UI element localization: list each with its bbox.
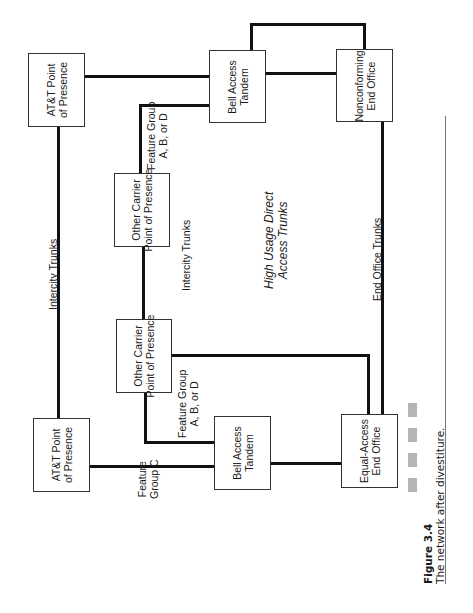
node-nonconforming-end-office: Nonconforming End Office bbox=[336, 49, 393, 122]
node-att-pop-top: AT&T Point of Presence bbox=[28, 53, 85, 127]
label-line1: Feature bbox=[136, 459, 148, 499]
node-label-line1: Bell Access bbox=[231, 426, 243, 480]
node-label: Bell Access Tandem bbox=[226, 60, 250, 114]
figure-caption: Figure 3.4 The network after divestiture… bbox=[422, 428, 446, 584]
node-equal-access-end-office: Equal-Access End Office bbox=[341, 414, 398, 488]
node-label-line1: Equal-Access bbox=[358, 419, 370, 483]
label-line2: A, B, or D bbox=[157, 102, 169, 170]
node-label-line1: AT&T Point bbox=[50, 427, 62, 483]
line-oc-bottom-to-equal-access-h bbox=[171, 354, 369, 357]
line-oc-bottom-to-bell-bottom-v bbox=[144, 392, 147, 443]
node-other-carrier-bottom: Other Carrier Point of Presence bbox=[116, 319, 172, 393]
line-oc-bottom-to-equal-access-v bbox=[367, 354, 370, 414]
label-text: Intercity Trunks bbox=[180, 220, 192, 291]
node-label: AT&T Point of Presence bbox=[50, 427, 74, 483]
node-label-line2: End Office bbox=[365, 50, 377, 121]
node-label-line1: Other Carrier bbox=[130, 169, 142, 252]
label-line1: Feature Group bbox=[176, 370, 188, 438]
label-line2: Group C bbox=[148, 459, 160, 499]
node-label-line2: Point of Presence bbox=[142, 169, 154, 252]
label-line1: High Usage Direct bbox=[262, 192, 276, 289]
line-bell-bottom-to-equal-access bbox=[271, 462, 341, 465]
label-feature-group-c: Feature Group C bbox=[136, 459, 160, 499]
line-loop-left bbox=[250, 23, 253, 50]
node-label-line2: Tandem bbox=[238, 60, 250, 114]
label-end-office-trunks: End Office Trunks bbox=[371, 218, 383, 301]
node-label-line2: of Presence bbox=[62, 427, 74, 483]
node-label-line1: AT&T Point bbox=[45, 62, 57, 118]
caption-bar bbox=[408, 478, 417, 492]
node-label: Other Carrier Point of Presence bbox=[132, 315, 156, 398]
label-line1: Feature Group bbox=[145, 102, 157, 170]
node-label: Bell Access Tandem bbox=[231, 426, 255, 480]
label-line2: Access Trunks bbox=[276, 192, 290, 289]
node-label: Other Carrier Point of Presence bbox=[130, 169, 154, 252]
caption-bar bbox=[408, 453, 417, 467]
node-bell-tandem-top: Bell Access Tandem bbox=[209, 50, 266, 123]
label-line2: A, B, or D bbox=[188, 370, 200, 438]
line-att-top-to-bell-top bbox=[84, 75, 209, 78]
node-label-line2: End Office bbox=[370, 419, 382, 483]
line-bell-top-to-oc-top-v bbox=[139, 104, 142, 173]
node-label: AT&T Point of Presence bbox=[45, 62, 69, 118]
node-label-line1: Bell Access bbox=[226, 60, 238, 114]
line-bell-top-to-nonconforming bbox=[266, 72, 336, 75]
node-label-line1: Nonconforming bbox=[353, 50, 365, 121]
node-other-carrier-top: Other Carrier Point of Presence bbox=[114, 173, 170, 247]
node-label: Nonconforming End Office bbox=[353, 50, 377, 121]
caption-rule bbox=[445, 116, 446, 584]
node-label-line2: Tandem bbox=[243, 426, 255, 480]
line-oc-bottom-to-bell-bottom-h bbox=[144, 441, 214, 444]
node-bell-tandem-bottom: Bell Access Tandem bbox=[214, 416, 271, 490]
label-feature-group-abd-bottom: Feature Group A, B, or D bbox=[176, 370, 200, 438]
node-label-line2: of Presence bbox=[57, 62, 69, 118]
label-text: Intercity Trunks bbox=[47, 239, 59, 310]
node-label-line2: Point of Presence bbox=[144, 315, 156, 398]
line-oc-top-to-oc-bottom bbox=[142, 246, 145, 319]
label-intercity-trunks-left: Intercity Trunks bbox=[47, 239, 59, 310]
node-att-pop-bottom: AT&T Point of Presence bbox=[33, 418, 90, 492]
line-loop-top bbox=[250, 23, 366, 26]
node-label: Equal-Access End Office bbox=[358, 419, 382, 483]
label-text: End Office Trunks bbox=[371, 218, 383, 301]
caption-bar bbox=[408, 428, 417, 442]
line-loop-right bbox=[363, 23, 366, 49]
node-label-line1: Other Carrier bbox=[132, 315, 144, 398]
caption-bar bbox=[408, 403, 417, 417]
figure-number: Figure 3.4 bbox=[422, 428, 434, 584]
label-intercity-trunks-center: Intercity Trunks bbox=[180, 220, 192, 291]
label-feature-group-abd-top: Feature Group A, B, or D bbox=[145, 102, 169, 170]
label-high-usage-direct-access-trunks: High Usage Direct Access Trunks bbox=[262, 192, 290, 289]
